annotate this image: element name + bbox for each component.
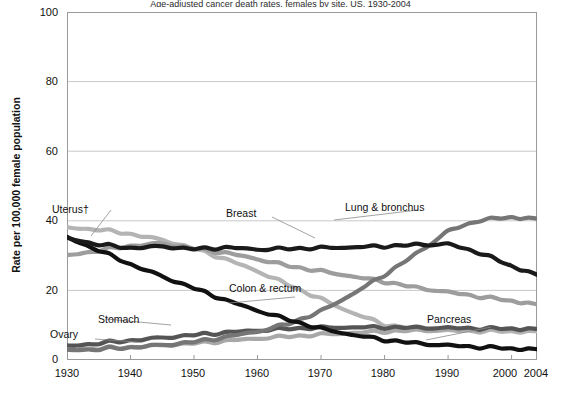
x-tick-1970: 1970 [298, 367, 342, 379]
y-axis-label: Rate per 100,000 female population [10, 85, 22, 285]
y-tick-40: 40 [24, 214, 58, 226]
series-label-uterus: Uterus† [52, 203, 89, 215]
series-label-lung: Lung & bronchus [345, 201, 424, 213]
x-tick-1960: 1960 [235, 367, 279, 379]
plot-frame [68, 13, 537, 360]
series-line-colon-rectum [67, 243, 537, 304]
plot-svg [67, 12, 537, 360]
y-tick-20: 20 [24, 284, 58, 296]
x-tick-1980: 1980 [361, 367, 405, 379]
x-tick-2004: 2004 [514, 367, 558, 379]
chart-title-cropped: Age-adjusted cancer death rates, females… [0, 0, 561, 7]
y-tick-100: 100 [24, 6, 58, 18]
series-label-ovary: Ovary [50, 328, 78, 340]
x-tick-1950: 1950 [171, 367, 215, 379]
plot-area [67, 12, 537, 360]
leader-line-1 [272, 217, 315, 238]
series-label-colon: Colon & rectum [229, 282, 301, 294]
series-label-pancreas: Pancreas [427, 313, 471, 325]
series-label-stomach: Stomach [98, 313, 139, 325]
series-label-breast: Breast [226, 207, 256, 219]
x-tick-1930: 1930 [45, 367, 89, 379]
y-tick-60: 60 [24, 145, 58, 157]
y-tick-80: 80 [24, 75, 58, 87]
x-tick-1990: 1990 [425, 367, 469, 379]
y-tick-0: 0 [24, 353, 58, 365]
cancer-death-rate-chart: Age-adjusted cancer death rates, females… [0, 0, 561, 395]
x-tick-1940: 1940 [108, 367, 152, 379]
leader-line-3 [229, 297, 295, 303]
